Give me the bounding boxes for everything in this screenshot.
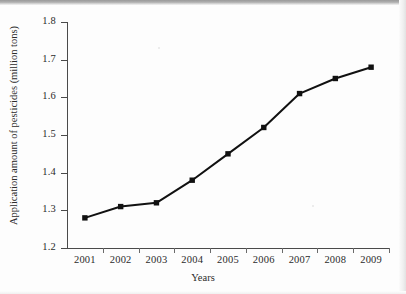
line-path bbox=[85, 67, 371, 218]
data-point-marker bbox=[261, 125, 266, 130]
data-point-marker bbox=[118, 204, 123, 209]
data-point-markers bbox=[82, 65, 374, 221]
data-point-marker bbox=[225, 151, 230, 156]
data-point-marker bbox=[368, 65, 373, 70]
chart-page: Application amount of pesticides (millio… bbox=[0, 0, 406, 294]
x-axis-title: Years bbox=[0, 272, 406, 283]
data-point-marker bbox=[297, 91, 302, 96]
data-point-marker bbox=[82, 215, 87, 220]
data-series-layer bbox=[0, 0, 406, 294]
data-point-marker bbox=[154, 200, 159, 205]
data-point-marker bbox=[333, 76, 338, 81]
data-point-marker bbox=[190, 178, 195, 183]
